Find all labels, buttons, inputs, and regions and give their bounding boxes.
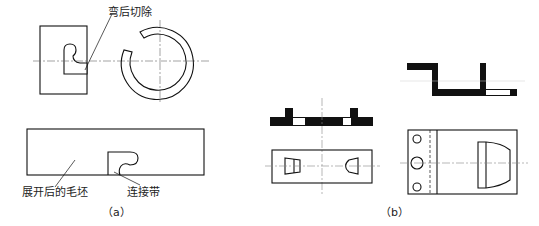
- leader-strip: [114, 172, 140, 185]
- split-ring: [121, 28, 193, 100]
- caption-b: （b）: [380, 207, 409, 218]
- part-b-section-top: [270, 108, 373, 126]
- label-unfolded-blank: 展开后的毛坯: [22, 187, 88, 198]
- part-b-z-profile: [407, 63, 517, 96]
- technical-drawing: 弯后切除 展开后的毛坯 连接带 （a） （b）: [0, 0, 539, 226]
- bent-part-front-view: [40, 26, 87, 94]
- label-connecting-strip: 连接带: [127, 187, 160, 198]
- caption-a: （a）: [102, 207, 131, 218]
- unfolded-blank: [27, 129, 204, 175]
- label-cut-after-bending: 弯后切除: [108, 7, 152, 18]
- leader-cut: [85, 14, 112, 70]
- leader-blank: [55, 160, 75, 187]
- part-b-side-view: [408, 130, 517, 194]
